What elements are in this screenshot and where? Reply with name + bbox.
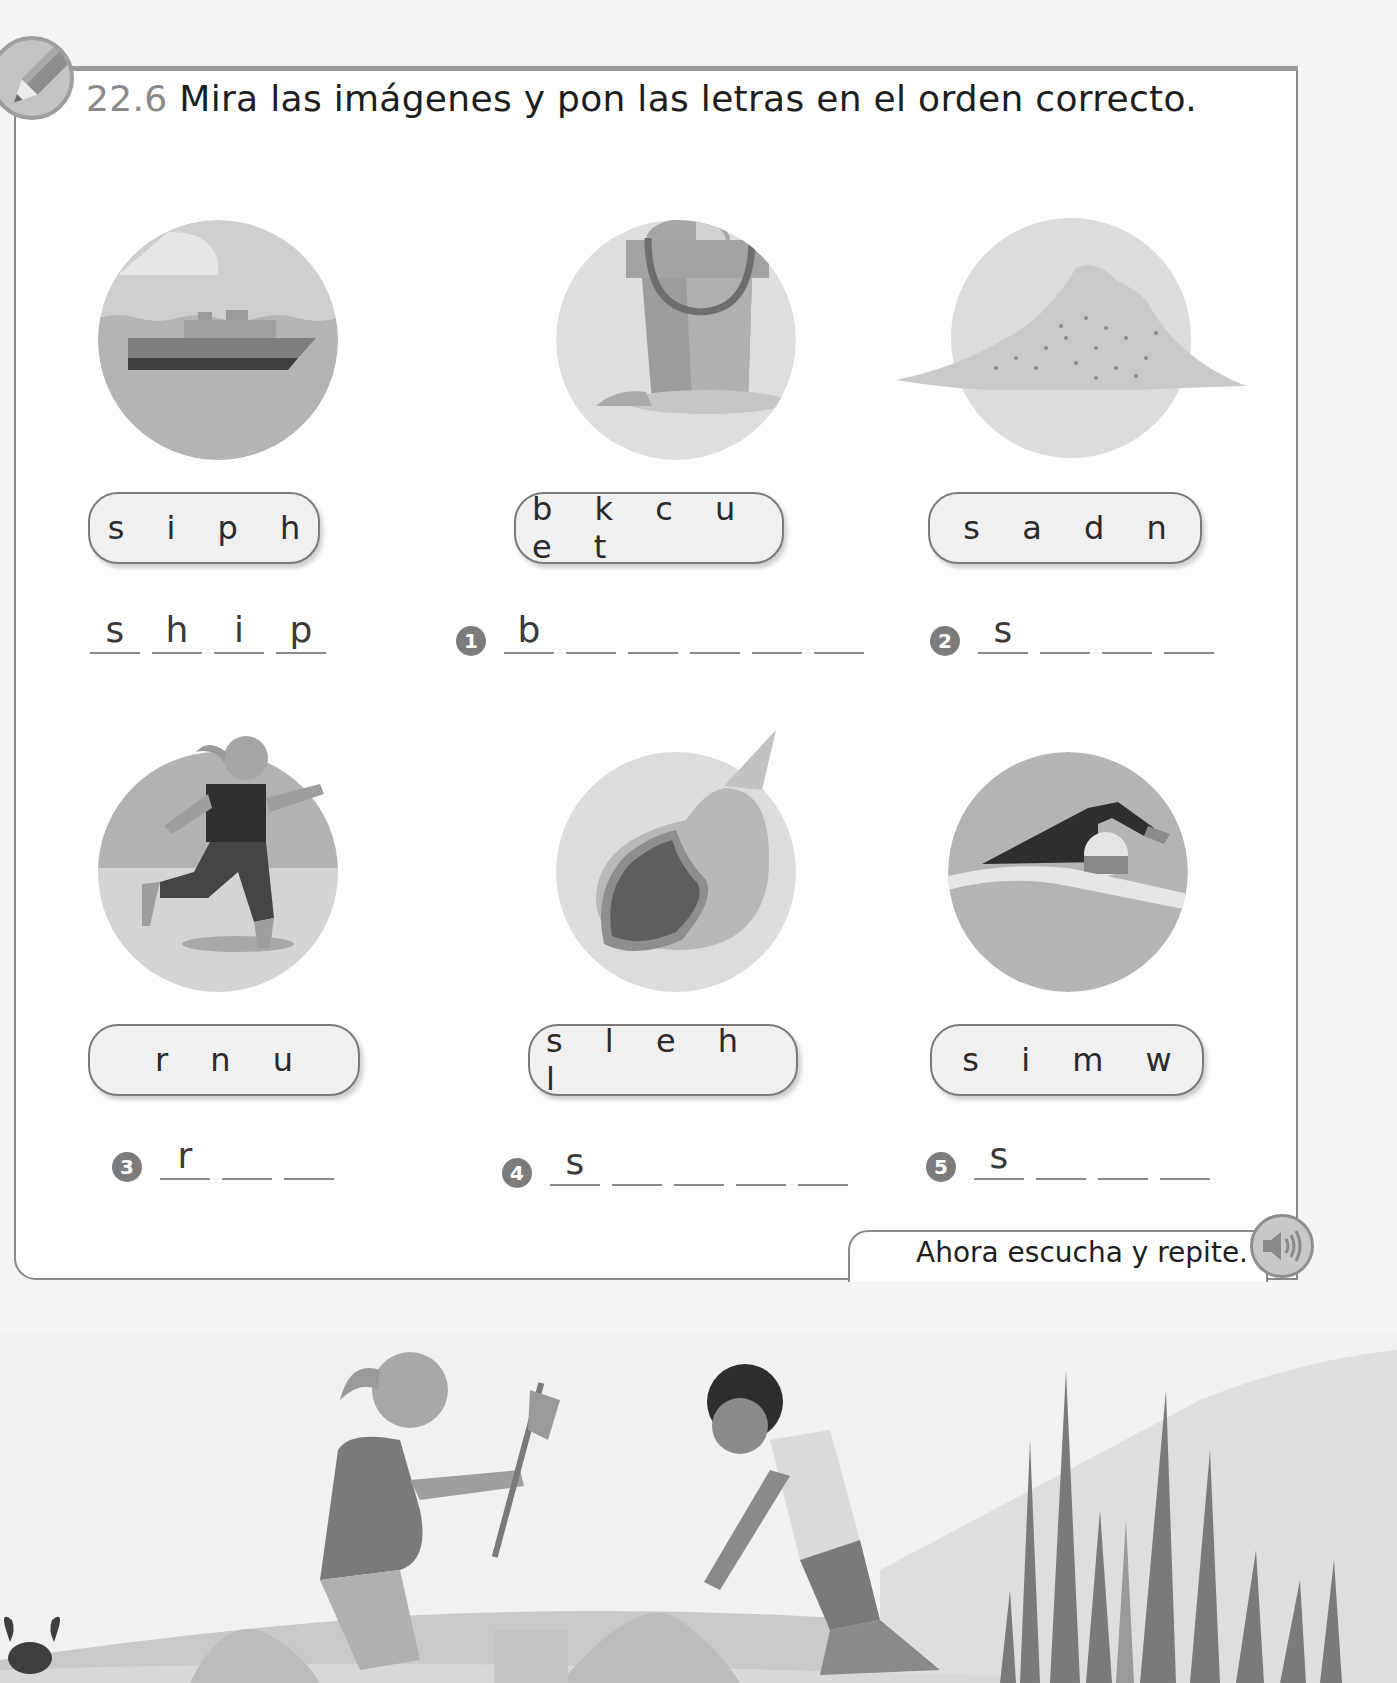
answer-slot[interactable]: b [504,608,554,654]
scrambled-letters-1: b k c u e t [514,492,784,564]
scrambled-letters-3: r n u [88,1024,360,1096]
answer-2: 2 s [930,604,1214,654]
exercise-title: 22.6Mira las imágenes y pon las letras e… [86,78,1197,119]
answer-slot[interactable] [1164,608,1214,654]
answer-slot[interactable] [566,608,616,654]
answer-slot[interactable]: s [550,1140,600,1186]
speaker-icon [1261,1228,1303,1264]
answer-slot[interactable] [1160,1134,1210,1180]
scrambled-letters-example: s i p h [88,492,320,564]
exercise-instruction: Mira las imágenes y pon las letras en el… [179,78,1197,119]
listen-repeat-prompt: Ahora escucha y repite. [916,1236,1248,1269]
answer-slot[interactable]: r [160,1134,210,1180]
answer-slot[interactable] [752,608,802,654]
answer-slot[interactable] [222,1134,272,1180]
scrambled-letters-2: s a d n [928,492,1202,564]
scrambled-letters-4: s l e h l [528,1024,798,1096]
scrambled-letters-5: s i m w [930,1024,1204,1096]
frame-top-rule [60,66,1298,71]
answer-1: 1 b [456,604,864,654]
answer-slot[interactable] [690,608,740,654]
question-number-badge: 3 [112,1152,142,1182]
answer-slot[interactable] [1102,608,1152,654]
answer-slot[interactable] [1098,1134,1148,1180]
exercise-number: 22.6 [86,78,167,119]
question-number-badge: 4 [502,1158,532,1188]
ship-picture [98,220,338,460]
answer-4: 4 s [502,1136,848,1186]
question-number-badge: 2 [930,626,960,656]
answer-example: s h i p [90,604,326,654]
answer-slot[interactable] [284,1134,334,1180]
answer-slot[interactable] [736,1140,786,1186]
answer-3: 3 r [112,1130,334,1180]
bucket-picture [556,220,796,460]
answer-slot[interactable] [798,1140,848,1186]
answer-slot[interactable]: p [276,608,326,654]
question-number-badge: 1 [456,626,486,656]
answer-5: 5 s [926,1130,1210,1180]
answer-slot[interactable]: s [974,1134,1024,1180]
answer-slot[interactable] [1036,1134,1086,1180]
sand-picture [896,218,1246,458]
audio-play-button[interactable] [1250,1214,1314,1278]
answer-slot[interactable]: s [90,608,140,654]
answer-slot[interactable] [674,1140,724,1186]
answer-slot[interactable] [1040,608,1090,654]
pencil-icon [0,36,74,120]
run-picture [98,722,338,992]
beach-scene-illustration [0,1330,1397,1683]
answer-slot[interactable]: h [152,608,202,654]
swim-picture [948,752,1188,992]
answer-slot[interactable]: i [214,608,264,654]
answer-slot[interactable]: s [978,608,1028,654]
shell-picture [556,730,796,992]
question-number-badge: 5 [926,1152,956,1182]
answer-slot[interactable] [814,608,864,654]
answer-slot[interactable] [628,608,678,654]
answer-slot[interactable] [612,1140,662,1186]
